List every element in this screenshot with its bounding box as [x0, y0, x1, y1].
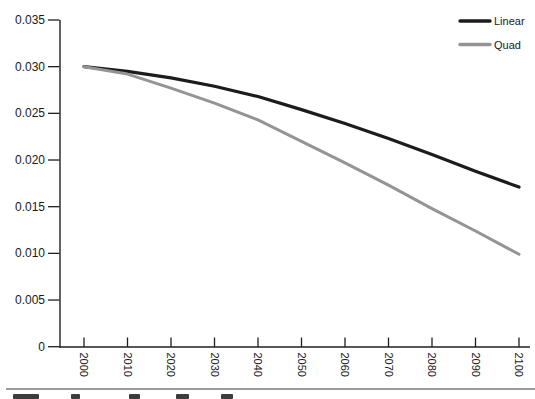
- growth-rate-projection-chart: 0.0350.0300.0250.0200.0150.0100.00502000…: [0, 0, 535, 388]
- y-tick-label: 0: [38, 340, 45, 354]
- y-tick-label: 0.010: [15, 246, 45, 260]
- legend-label-linear: Linear: [494, 15, 525, 27]
- cropped-caption-fragment: [13, 394, 39, 399]
- cropped-caption-fragment: [129, 394, 140, 399]
- x-tick-label: 2010: [122, 353, 134, 377]
- cropped-caption-fragment: [221, 394, 233, 399]
- y-tick-label: 0.020: [15, 153, 45, 167]
- x-ticks: 2000201020202030204020502060207020802090…: [78, 338, 525, 377]
- cropped-caption-fragment: [71, 394, 80, 399]
- y-tick-label: 0.005: [15, 293, 45, 307]
- y-tick-label: 0.030: [15, 60, 45, 74]
- y-tick-label: 0.035: [15, 13, 45, 27]
- y-tick-label: 0.025: [15, 106, 45, 120]
- x-tick-label: 2000: [78, 353, 90, 377]
- cropped-caption-fragment: [176, 394, 189, 399]
- axes: [59, 20, 530, 348]
- legend-label-quad: Quad: [494, 39, 521, 51]
- figure-page: 0.0350.0300.0250.0200.0150.0100.00502000…: [0, 0, 535, 399]
- caption-divider-rule: [6, 388, 535, 390]
- x-tick-label: 2060: [339, 353, 351, 377]
- x-tick-label: 2100: [513, 353, 525, 377]
- x-tick-label: 2020: [165, 353, 177, 377]
- legend: LinearQuad: [460, 15, 525, 51]
- y-ticks: 0.0350.0300.0250.0200.0150.0100.0050: [15, 13, 60, 354]
- series-line-quad: [84, 67, 519, 255]
- cropped-caption: [0, 388, 535, 399]
- x-tick-label: 2030: [209, 353, 221, 377]
- y-tick-label: 0.015: [15, 200, 45, 214]
- series-line-linear: [84, 67, 519, 187]
- x-tick-label: 2090: [470, 353, 482, 377]
- x-tick-label: 2040: [252, 353, 264, 377]
- x-tick-label: 2070: [383, 353, 395, 377]
- x-tick-label: 2050: [296, 353, 308, 377]
- x-tick-label: 2080: [426, 353, 438, 377]
